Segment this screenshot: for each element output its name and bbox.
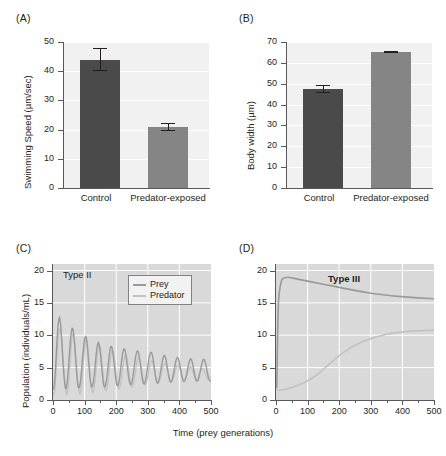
panel-a: (A) Swimming Speed (µm/sec) xyxy=(0,0,223,228)
panel-d-ytick-20 xyxy=(270,271,275,272)
panel-d-xticklabel-100: 100 xyxy=(293,406,323,416)
panel-b-ticklabel-50: 50 xyxy=(257,78,277,88)
panel-d: (D) Type III xyxy=(223,228,446,456)
panel-c-ytick-20 xyxy=(47,271,52,272)
panel-b-ticklabel-70: 70 xyxy=(257,36,277,46)
panel-d-xtick-150 xyxy=(323,400,324,403)
panel-c-yticklabel-5: 5 xyxy=(25,362,44,372)
panel-a-label: (A) xyxy=(16,12,31,24)
panel-d-prey-curve xyxy=(277,277,434,388)
panel-c-yticklabel-20: 20 xyxy=(25,265,44,275)
panel-d-yticklabel-0: 0 xyxy=(248,394,267,404)
legend-swatch-prey xyxy=(133,284,146,286)
panel-c-ytick-15 xyxy=(47,303,52,304)
legend-item-predator: Predator xyxy=(133,290,185,301)
bar-control-b xyxy=(303,89,343,188)
panel-d-plot-area xyxy=(276,264,434,400)
panel-a-ticklabel-50: 50 xyxy=(34,36,54,46)
panel-a-y-axis xyxy=(63,42,64,189)
bar-predator-exposed-a xyxy=(148,127,188,188)
panel-b-ylabel: Body width (µm) xyxy=(245,101,256,170)
panel-c-legend: Prey Predator xyxy=(128,275,192,305)
panel-d-yticklabel-20: 20 xyxy=(248,265,267,275)
errorbar-predator-exposed-a xyxy=(161,123,175,131)
panel-b-tick-20 xyxy=(281,146,286,147)
panel-d-annotation: Type III xyxy=(328,273,360,284)
panel-d-label: (D) xyxy=(239,242,254,254)
legend-label-predator: Predator xyxy=(150,290,185,301)
panel-c-xtick-400 xyxy=(179,400,180,405)
panel-a-x-axis xyxy=(63,188,210,189)
panel-d-yticklabel-15: 15 xyxy=(248,297,267,307)
panel-c-annotation: Type II xyxy=(63,269,92,280)
panel-c-yticklabel-15: 15 xyxy=(25,297,44,307)
panel-a-ticklabel-40: 40 xyxy=(34,65,54,75)
panel-c-yticklabel-10: 10 xyxy=(25,329,44,339)
errorbar-control-a xyxy=(93,48,107,71)
legend-swatch-predator xyxy=(133,295,146,297)
panel-c-ytick-0 xyxy=(47,400,52,401)
panel-c-xticklabel-200: 200 xyxy=(101,406,131,416)
panel-a-tick-20 xyxy=(58,130,63,131)
panel-b-label: (B) xyxy=(239,12,254,24)
panel-d-xtick-500 xyxy=(434,400,435,405)
panel-c-predator-curve xyxy=(54,329,211,396)
panel-c-xtick-500 xyxy=(211,400,212,405)
panel-d-predator-curve xyxy=(277,330,434,390)
panel-a-plot-area xyxy=(64,42,209,188)
panel-b-plot-area xyxy=(287,42,432,188)
panel-b-ticklabel-10: 10 xyxy=(257,161,277,171)
panel-a-tick-30 xyxy=(58,100,63,101)
panel-d-xtick-350 xyxy=(387,400,388,403)
panel-d-xticklabel-0: 0 xyxy=(261,406,291,416)
bar-predator-exposed-b xyxy=(371,52,411,188)
panel-a-tick-50 xyxy=(58,42,63,43)
panel-d-xtick-100 xyxy=(308,400,309,405)
panel-c-xtick-0 xyxy=(53,400,54,405)
panel-c-y-axis xyxy=(52,264,53,401)
panel-a-ylabel: Swimming Speed (µm/sec) xyxy=(22,75,33,189)
panel-b-x-axis xyxy=(286,188,433,189)
bar-control-a xyxy=(80,60,120,189)
panel-c-xticklabel-300: 300 xyxy=(133,406,163,416)
legend-item-prey: Prey xyxy=(133,279,185,290)
panel-d-xtick-400 xyxy=(402,400,403,405)
panel-b-tick-60 xyxy=(281,63,286,64)
panel-b-ticklabel-0: 0 xyxy=(257,182,277,192)
panel-a-tick-10 xyxy=(58,159,63,160)
panel-b-ticklabel-30: 30 xyxy=(257,119,277,129)
panel-c-xticklabel-100: 100 xyxy=(70,406,100,416)
panel-b-ticklabel-20: 20 xyxy=(257,140,277,150)
panel-b-tick-50 xyxy=(281,84,286,85)
panel-c-xticklabel-0: 0 xyxy=(38,406,68,416)
panel-c-ytick-10 xyxy=(47,335,52,336)
panel-b-tick-0 xyxy=(281,188,286,189)
panel-d-xticklabel-400: 400 xyxy=(387,406,417,416)
panel-d-xtick-200 xyxy=(339,400,340,405)
panel-c-xtick-250 xyxy=(132,400,133,403)
shared-xlabel: Time (prey generations) xyxy=(113,427,333,438)
panel-b-tick-70 xyxy=(281,42,286,43)
panel-c-xtick-200 xyxy=(116,400,117,405)
panel-c-yticklabel-0: 0 xyxy=(25,394,44,404)
panel-c-xtick-100 xyxy=(85,400,86,405)
panel-d-xtick-300 xyxy=(371,400,372,405)
panel-c-xticklabel-400: 400 xyxy=(164,406,194,416)
panel-d-xticklabel-500: 500 xyxy=(419,406,446,416)
panel-c-xtick-350 xyxy=(164,400,165,403)
panel-c-xtick-150 xyxy=(100,400,101,403)
panel-d-xticklabel-300: 300 xyxy=(356,406,386,416)
errorbar-control-b xyxy=(316,85,330,93)
panel-c: (C) Population (individuals/mL) xyxy=(0,228,223,456)
panel-d-svg xyxy=(276,264,434,400)
panel-a-ticklabel-10: 10 xyxy=(34,153,54,163)
panel-a-ticklabel-20: 20 xyxy=(34,124,54,134)
panel-d-xtick-50 xyxy=(292,400,293,403)
panel-d-ytick-15 xyxy=(270,303,275,304)
panel-d-ytick-5 xyxy=(270,368,275,369)
panel-b: (B) Body width (µm) xyxy=(223,0,446,228)
panel-c-xtick-50 xyxy=(69,400,70,403)
panel-a-tick-40 xyxy=(58,71,63,72)
panel-b-tick-10 xyxy=(281,167,286,168)
figure-container: (A) Swimming Speed (µm/sec) xyxy=(0,0,446,456)
